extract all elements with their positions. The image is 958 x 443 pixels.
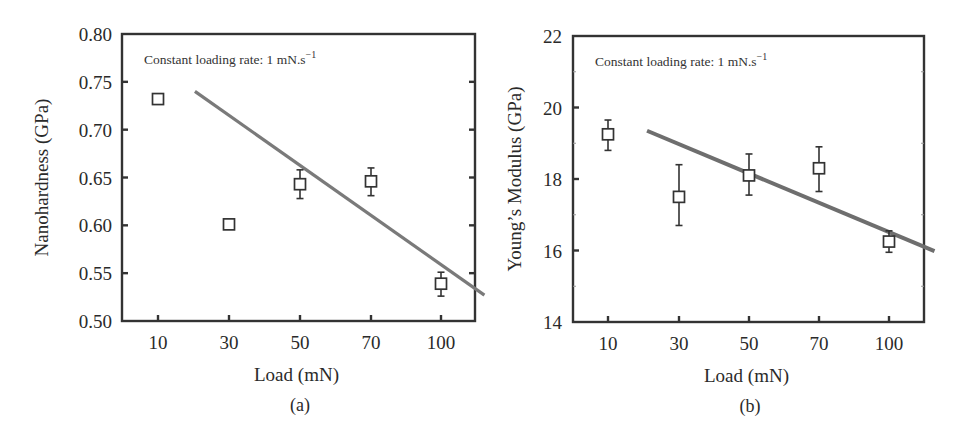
figure-a-nanohardness: 0.500.550.600.650.700.750.8010305070100C… bbox=[0, 0, 479, 443]
x-tick-label: 50 bbox=[740, 333, 759, 354]
y-tick-label: 0.55 bbox=[79, 263, 112, 284]
y-tick-label: 18 bbox=[543, 169, 562, 190]
chart-a-canvas: 0.500.550.600.650.700.750.8010305070100C… bbox=[0, 0, 479, 443]
open-square-marker bbox=[674, 191, 685, 202]
annotation-superscript: −1 bbox=[757, 51, 768, 62]
x-axis-title: Load (mN) bbox=[704, 365, 789, 387]
y-tick-label: 16 bbox=[543, 241, 562, 262]
open-square-marker bbox=[224, 219, 235, 230]
y-axis-title: Nanohardness (GPa) bbox=[31, 99, 53, 257]
x-tick-label: 10 bbox=[149, 332, 168, 353]
data-point bbox=[603, 120, 614, 150]
data-point bbox=[224, 219, 235, 230]
chart-b-canvas: 141618202210305070100Constant loading ra… bbox=[479, 0, 958, 443]
data-point bbox=[744, 154, 755, 195]
data-point bbox=[153, 94, 164, 105]
open-square-marker bbox=[153, 94, 164, 105]
data-point bbox=[366, 168, 377, 196]
x-tick-label: 70 bbox=[810, 333, 829, 354]
data-point bbox=[814, 147, 825, 192]
x-tick-label: 100 bbox=[427, 332, 456, 353]
x-tick-label: 70 bbox=[362, 332, 381, 353]
data-point bbox=[295, 170, 306, 199]
plot-frame bbox=[122, 34, 475, 321]
y-tick-label: 0.80 bbox=[79, 24, 112, 45]
annotation-text: Constant loading rate: 1 mN.s bbox=[595, 54, 757, 69]
y-tick-label: 0.70 bbox=[79, 120, 112, 141]
y-tick-label: 22 bbox=[543, 26, 562, 47]
open-square-marker bbox=[366, 176, 377, 187]
y-tick-label: 14 bbox=[543, 312, 563, 333]
x-tick-label: 10 bbox=[599, 333, 618, 354]
chart-annotation: Constant loading rate: 1 mN.s−1 bbox=[595, 51, 767, 69]
open-square-marker bbox=[436, 278, 447, 289]
y-tick-label: 0.75 bbox=[79, 72, 112, 93]
figure-b-youngs-modulus: 141618202210305070100Constant loading ra… bbox=[479, 0, 958, 443]
panel-label: (b) bbox=[740, 396, 761, 417]
open-square-marker bbox=[295, 179, 306, 190]
x-tick-label: 30 bbox=[670, 333, 689, 354]
y-axis-title: Young’s Modulus (GPa) bbox=[504, 87, 526, 272]
open-square-marker bbox=[814, 163, 825, 174]
chart-annotation: Constant loading rate: 1 mN.s−1 bbox=[144, 49, 316, 67]
fit-line bbox=[195, 91, 484, 295]
annotation-superscript: −1 bbox=[306, 49, 317, 60]
open-square-marker bbox=[603, 129, 614, 140]
open-square-marker bbox=[884, 236, 895, 247]
data-point bbox=[436, 272, 447, 296]
y-tick-label: 20 bbox=[543, 98, 562, 119]
x-tick-label: 50 bbox=[291, 332, 310, 353]
y-tick-label: 0.65 bbox=[79, 168, 112, 189]
open-square-marker bbox=[744, 170, 755, 181]
annotation-text: Constant loading rate: 1 mN.s bbox=[144, 52, 306, 67]
x-tick-label: 30 bbox=[220, 332, 239, 353]
x-tick-label: 100 bbox=[875, 333, 904, 354]
data-point bbox=[674, 165, 685, 226]
panel-label: (a) bbox=[290, 395, 310, 416]
x-axis-title: Load (mN) bbox=[254, 364, 339, 386]
fit-line bbox=[647, 131, 934, 251]
y-tick-label: 0.60 bbox=[79, 215, 112, 236]
y-tick-label: 0.50 bbox=[79, 311, 112, 332]
